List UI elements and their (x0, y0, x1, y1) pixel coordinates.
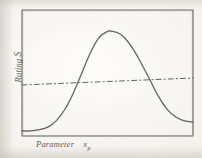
response-curve (22, 31, 193, 131)
y-axis-label: RatingS (7, 38, 25, 96)
reference-dashed-line (22, 78, 193, 85)
plot-frame-shadow (23, 11, 193, 136)
x-axis-label: Parameterxp (36, 139, 91, 151)
figure-root: RatingS Parameterxp (0, 0, 202, 158)
plot-frame (22, 10, 193, 136)
x-axis-label-text: Parameter (36, 139, 74, 149)
response-curve-texture (22, 31, 193, 131)
y-axis-label-text: Rating (13, 59, 23, 83)
x-axis-label-symbol: x (74, 139, 87, 149)
plot-canvas (0, 0, 202, 158)
x-axis-label-subscript: p (87, 145, 91, 151)
y-axis-label-symbol: S (13, 52, 23, 59)
